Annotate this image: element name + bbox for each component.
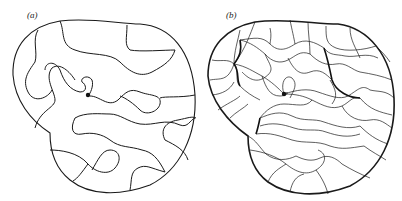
panel-b: (b) — [200, 0, 402, 201]
panel-b-diagram — [200, 0, 402, 201]
panel-a: (a) — [0, 0, 200, 201]
panel-a-diagram — [0, 0, 200, 201]
panel-a-label: (a) — [27, 10, 38, 20]
panel-b-label: (b) — [226, 10, 237, 20]
